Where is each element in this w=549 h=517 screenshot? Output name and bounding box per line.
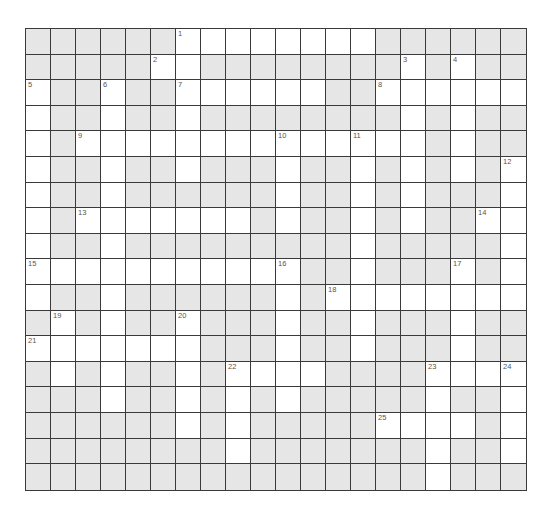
crossword-cell[interactable]	[151, 131, 176, 157]
crossword-cell[interactable]	[501, 183, 526, 209]
crossword-cell[interactable]	[176, 387, 201, 413]
crossword-cell[interactable]	[226, 80, 251, 106]
crossword-cell[interactable]	[201, 131, 226, 157]
crossword-cell[interactable]	[451, 131, 476, 157]
crossword-cell[interactable]	[176, 208, 201, 234]
crossword-cell[interactable]: 24	[501, 362, 526, 388]
crossword-cell[interactable]	[101, 131, 126, 157]
crossword-cell[interactable]	[351, 183, 376, 209]
crossword-cell[interactable]: 8	[376, 80, 401, 106]
crossword-cell[interactable]	[201, 80, 226, 106]
crossword-cell[interactable]	[476, 362, 501, 388]
crossword-cell[interactable]	[251, 80, 276, 106]
crossword-cell[interactable]: 25	[376, 413, 401, 439]
crossword-cell[interactable]	[476, 80, 501, 106]
crossword-cell[interactable]	[426, 464, 451, 490]
crossword-cell[interactable]	[26, 106, 51, 132]
crossword-cell[interactable]	[451, 106, 476, 132]
crossword-cell[interactable]	[426, 285, 451, 311]
crossword-cell[interactable]	[451, 311, 476, 337]
crossword-cell[interactable]	[101, 183, 126, 209]
crossword-cell[interactable]	[501, 439, 526, 465]
crossword-cell[interactable]	[301, 29, 326, 55]
crossword-cell[interactable]	[451, 80, 476, 106]
crossword-cell[interactable]: 7	[176, 80, 201, 106]
crossword-cell[interactable]	[201, 259, 226, 285]
crossword-cell[interactable]	[276, 311, 301, 337]
crossword-cell[interactable]	[301, 131, 326, 157]
crossword-cell[interactable]	[176, 131, 201, 157]
crossword-cell[interactable]	[176, 362, 201, 388]
crossword-cell[interactable]	[101, 208, 126, 234]
crossword-cell[interactable]	[276, 80, 301, 106]
crossword-cell[interactable]	[101, 336, 126, 362]
crossword-cell[interactable]	[26, 208, 51, 234]
crossword-cell[interactable]	[351, 259, 376, 285]
crossword-cell[interactable]	[226, 131, 251, 157]
crossword-cell[interactable]: 11	[351, 131, 376, 157]
crossword-cell[interactable]	[401, 106, 426, 132]
crossword-cell[interactable]	[251, 131, 276, 157]
crossword-cell[interactable]	[476, 285, 501, 311]
crossword-cell[interactable]	[76, 336, 101, 362]
crossword-cell[interactable]	[226, 413, 251, 439]
crossword-cell[interactable]	[226, 208, 251, 234]
crossword-cell[interactable]	[101, 259, 126, 285]
crossword-cell[interactable]	[201, 29, 226, 55]
crossword-cell[interactable]: 15	[26, 259, 51, 285]
crossword-cell[interactable]	[401, 183, 426, 209]
crossword-cell[interactable]	[276, 183, 301, 209]
crossword-cell[interactable]	[301, 80, 326, 106]
crossword-cell[interactable]	[376, 285, 401, 311]
crossword-cell[interactable]	[76, 259, 101, 285]
crossword-cell[interactable]: 1	[176, 29, 201, 55]
crossword-cell[interactable]: 17	[451, 259, 476, 285]
crossword-cell[interactable]	[426, 439, 451, 465]
crossword-cell[interactable]	[426, 413, 451, 439]
crossword-cell[interactable]	[401, 131, 426, 157]
crossword-cell[interactable]	[176, 157, 201, 183]
crossword-cell[interactable]	[101, 362, 126, 388]
crossword-cell[interactable]	[426, 387, 451, 413]
crossword-cell[interactable]	[201, 208, 226, 234]
crossword-cell[interactable]	[176, 413, 201, 439]
crossword-cell[interactable]	[276, 285, 301, 311]
crossword-cell[interactable]	[401, 157, 426, 183]
crossword-cell[interactable]	[326, 131, 351, 157]
crossword-cell[interactable]	[276, 387, 301, 413]
crossword-cell[interactable]	[351, 29, 376, 55]
crossword-cell[interactable]	[276, 157, 301, 183]
crossword-cell[interactable]	[151, 259, 176, 285]
crossword-cell[interactable]	[26, 183, 51, 209]
crossword-cell[interactable]	[376, 131, 401, 157]
crossword-cell[interactable]	[501, 259, 526, 285]
crossword-cell[interactable]	[151, 208, 176, 234]
crossword-cell[interactable]	[501, 80, 526, 106]
crossword-cell[interactable]	[26, 131, 51, 157]
crossword-cell[interactable]: 22	[226, 362, 251, 388]
crossword-cell[interactable]	[276, 362, 301, 388]
crossword-cell[interactable]	[226, 439, 251, 465]
crossword-cell[interactable]	[351, 208, 376, 234]
crossword-cell[interactable]	[151, 336, 176, 362]
crossword-cell[interactable]	[101, 157, 126, 183]
crossword-cell[interactable]: 9	[76, 131, 101, 157]
crossword-cell[interactable]: 6	[101, 80, 126, 106]
crossword-cell[interactable]: 19	[51, 311, 76, 337]
crossword-cell[interactable]: 16	[276, 259, 301, 285]
crossword-cell[interactable]	[226, 259, 251, 285]
crossword-cell[interactable]	[426, 80, 451, 106]
crossword-cell[interactable]: 21	[26, 336, 51, 362]
crossword-cell[interactable]: 10	[276, 131, 301, 157]
crossword-cell[interactable]: 12	[501, 157, 526, 183]
crossword-cell[interactable]	[51, 259, 76, 285]
crossword-cell[interactable]	[126, 259, 151, 285]
crossword-cell[interactable]	[126, 336, 151, 362]
crossword-cell[interactable]: 2	[151, 55, 176, 81]
crossword-cell[interactable]: 18	[326, 285, 351, 311]
crossword-cell[interactable]	[301, 362, 326, 388]
crossword-cell[interactable]	[351, 336, 376, 362]
crossword-cell[interactable]	[401, 208, 426, 234]
crossword-cell[interactable]	[451, 285, 476, 311]
crossword-cell[interactable]	[101, 106, 126, 132]
